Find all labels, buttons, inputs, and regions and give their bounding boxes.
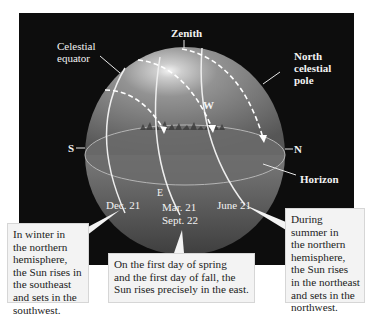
callout-summer: During summer in the northern hemisphere… — [285, 208, 365, 303]
label-north-pole-1: North — [294, 50, 322, 62]
label-east: E — [157, 187, 163, 199]
callout-winter-line: the southeast — [13, 278, 84, 291]
callout-summer-line: in the northeast — [291, 276, 360, 289]
pointer-equator — [100, 56, 120, 73]
callout-summer-line: and sets in the — [291, 289, 360, 302]
callout-winter: In winter in the northern hemisphere, th… — [7, 223, 89, 303]
label-zenith: Zenith — [171, 27, 202, 39]
callout-summer-line: the Sun rises — [291, 263, 360, 276]
callout-winter-line: southwest. — [13, 304, 84, 316]
label-june21: June 21 — [217, 199, 251, 211]
callout-winter-line: and sets in the — [13, 291, 84, 304]
callout-summer-line: During — [291, 213, 360, 226]
label-celestial-equator-1: Celestial — [57, 40, 96, 52]
callout-equinox-line: Sun rises precisely in the east. — [114, 283, 250, 296]
callout-equinox-line: and the first day of fall, the — [114, 271, 250, 284]
label-sept22: Sept. 22 — [162, 214, 198, 226]
callout-winter-line: In winter in — [13, 228, 84, 241]
callout-winter-line: hemisphere, — [13, 253, 84, 266]
callout-summer-line: northwest. — [291, 301, 360, 314]
label-south: S — [68, 142, 74, 154]
label-west: W — [203, 99, 214, 111]
callout-equinox-line: On the first day of spring — [114, 258, 250, 271]
callout-winter-line: the Sun rises in — [13, 266, 84, 279]
label-celestial-equator-2: equator — [57, 52, 90, 64]
label-horizon: Horizon — [300, 173, 339, 185]
callout-winter-line: the northern — [13, 241, 84, 254]
label-mar21: Mar. 21 — [162, 201, 196, 213]
callout-summer-line: summer in — [291, 226, 360, 239]
label-north-pole-2: celestial — [294, 62, 331, 74]
label-dec21: Dec. 21 — [106, 199, 140, 211]
label-north: N — [294, 143, 302, 155]
pointer-pole — [263, 72, 280, 84]
callout-equinox: On the first day of spring and the first… — [108, 253, 255, 303]
callout-summer-line: the northern — [291, 238, 360, 251]
callout-summer-line: hemisphere, — [291, 251, 360, 264]
label-north-pole-3: pole — [294, 74, 314, 86]
